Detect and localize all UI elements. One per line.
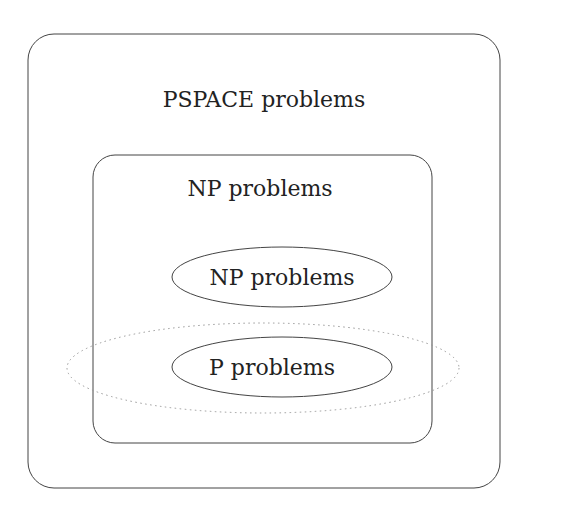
pspace-label: PSPACE problems	[163, 87, 366, 112]
complexity-diagram: PSPACE problems NP problems NP problems …	[0, 0, 562, 517]
p-ellipse-label: P problems	[209, 355, 335, 380]
np-ellipse-label: NP problems	[209, 265, 354, 290]
np-box-label: NP problems	[187, 176, 332, 201]
